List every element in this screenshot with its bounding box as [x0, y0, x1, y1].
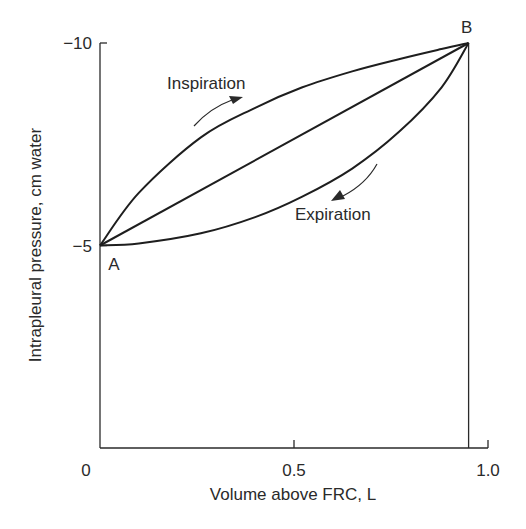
inspiration-arrowhead-icon [229, 96, 243, 104]
labels-group: −10−500.51.0ABInspirationExpirationVolum… [26, 18, 500, 504]
point-label-a: A [108, 255, 120, 274]
pressure-volume-chart: −10−500.51.0ABInspirationExpirationVolum… [0, 0, 526, 529]
expiration-arrowhead-icon [331, 190, 345, 201]
axes [100, 43, 488, 448]
point-label-b: B [461, 18, 472, 37]
expiration-arrow [343, 164, 377, 196]
x-tick-label: 1.0 [476, 461, 500, 480]
y-axis-title: Intrapleural pressure, cm water [26, 128, 45, 363]
series-group [100, 43, 469, 246]
inspiration-label: Inspiration [167, 74, 245, 93]
y-tick-label: −10 [63, 34, 92, 53]
x-tick-label: 0.5 [282, 461, 306, 480]
x-tick-label: 0 [81, 461, 90, 480]
expiration-label: Expiration [295, 205, 371, 224]
static-line-a-b-curve [100, 43, 469, 246]
x-axis-title: Volume above FRC, L [210, 485, 376, 504]
y-tick-label: −5 [73, 237, 92, 256]
